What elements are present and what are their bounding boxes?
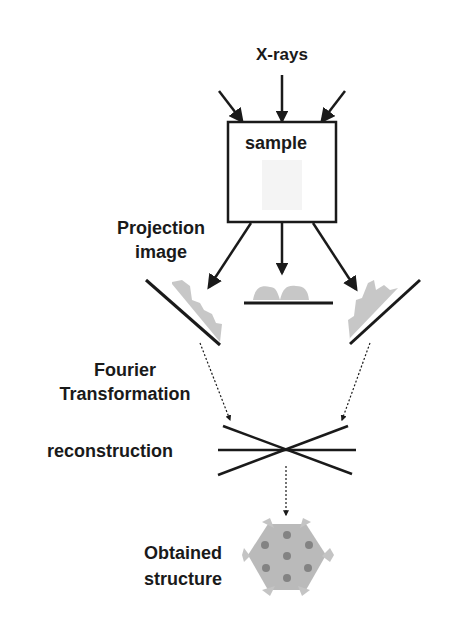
fourier-transformation-label: Fourier Transformation <box>40 358 210 406</box>
xray-arrow-right <box>322 91 345 121</box>
xrays-label: X-rays <box>250 44 314 66</box>
sample-label: sample <box>232 132 320 154</box>
projection-arrows <box>209 223 356 289</box>
sample-faint-texture <box>262 160 302 210</box>
fourier-dashed-arrows <box>200 343 370 420</box>
projection-plane-center <box>244 286 333 303</box>
obtained-structure-icon <box>242 518 334 596</box>
obtained-structure-label: Obtained structure <box>128 540 238 592</box>
reconstruction-cross <box>218 426 356 475</box>
xray-arrow-left <box>219 91 242 121</box>
incoming-xray-arrows <box>219 75 345 121</box>
reconstruction-label: reconstruction <box>30 440 190 462</box>
fourier-label-line2: Transformation <box>40 382 210 406</box>
projection-plane-left <box>146 280 222 345</box>
projection-label-line1: Projection <box>96 216 226 240</box>
fourier-arrow-right <box>342 343 370 420</box>
obtained-label-line1: Obtained <box>128 540 238 566</box>
projection-plane-right <box>348 280 420 344</box>
projection-image-label: Projection image <box>96 216 226 264</box>
obtained-label-line2: structure <box>128 566 238 592</box>
projection-arrow-right <box>313 223 356 289</box>
projection-label-line2: image <box>96 240 226 264</box>
xray-tomography-diagram <box>0 0 457 621</box>
fourier-label-line1: Fourier <box>40 358 210 382</box>
